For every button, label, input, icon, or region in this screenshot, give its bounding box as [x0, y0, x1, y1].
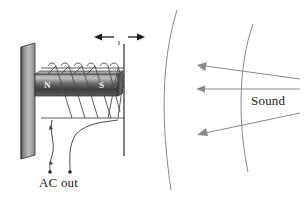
vibration-arrow — [94, 34, 145, 45]
magnet-south-pole-label: S — [99, 80, 105, 90]
sound-wavefronts — [164, 10, 253, 190]
output-leads — [48, 120, 118, 174]
magnet-north-pole-label: N — [44, 80, 51, 90]
wavefront-arc-1 — [164, 10, 177, 190]
sound-label: Sound — [251, 93, 285, 109]
ac-out-label: AC out — [39, 175, 78, 191]
figure-canvas: N S AC out Sound — [0, 0, 306, 200]
diaphragm-plate — [21, 43, 35, 159]
